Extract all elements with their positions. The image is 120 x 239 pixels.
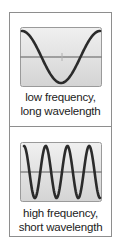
caption-line-2: long wavelength [10,104,111,118]
low-frequency-wave-icon [20,27,102,87]
caption-line-1: low frequency, [10,90,111,104]
low-frequency-diagram: low frequency, long wavelength [9,12,112,127]
caption-line-1: high frequency, [10,206,111,220]
caption: low frequency, long wavelength [10,90,111,118]
wave-graph-panel [20,142,102,202]
high-frequency-wave-icon [20,142,102,202]
high-frequency-diagram: high frequency, short wavelength [9,126,112,237]
caption: high frequency, short wavelength [10,206,111,234]
caption-line-2: short wavelength [10,220,111,234]
wave-graph-panel [20,27,102,87]
